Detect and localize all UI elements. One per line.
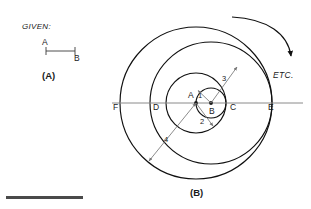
given-point-label-b: B	[74, 53, 80, 63]
footer-rule-bar	[6, 196, 83, 199]
given-point-label-a: A	[42, 37, 48, 47]
point-label-e: E	[268, 102, 274, 112]
point-label-c: C	[230, 102, 236, 112]
etc-label: ETC.	[273, 70, 294, 80]
point-label-f: F	[113, 102, 118, 112]
given-segment	[46, 47, 75, 55]
point-label-d: D	[153, 102, 159, 112]
panel-a-caption: (A)	[42, 70, 55, 81]
radius-arrow-3-label: 3	[222, 74, 226, 83]
point-label-b: B	[209, 106, 215, 116]
given-label: GIVEN:	[22, 22, 51, 31]
radius-arrow-3-line	[211, 67, 237, 103]
radius-arrow-1: 1	[198, 91, 211, 104]
point-label-a: A	[188, 90, 194, 100]
panel-b-caption: (B)	[190, 187, 203, 198]
radius-arrow-3: 3	[211, 67, 237, 103]
radius-arrow-2-label: 2	[200, 117, 204, 126]
radius-arrow-4-label: 4	[164, 135, 168, 144]
construction-diagram: GIVEN: A B (A)	[0, 0, 311, 209]
figure-page: GIVEN: A B (A)	[0, 0, 311, 209]
radius-arrow-1-label: 1	[198, 91, 202, 100]
